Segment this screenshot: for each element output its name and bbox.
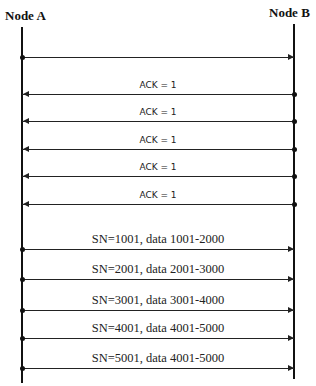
message-origin-dot [292, 147, 297, 152]
message-label: SN=2001, data 2001-3000 [22, 262, 294, 277]
message-label: ACK = 1 [22, 162, 294, 172]
message-arrow-line [22, 310, 294, 311]
arrowhead-icon [288, 54, 294, 60]
data-message: SN=3001, data 3001-4000 [0, 310, 316, 311]
ack-message: ACK = 1 [0, 176, 316, 177]
message-arrow-line [22, 368, 294, 369]
data-message: SN=1001, data 1001-2000 [0, 249, 316, 250]
message-label: ACK = 1 [22, 80, 294, 90]
data-message: SN=4001, data 4001-5000 [0, 338, 316, 339]
message-label: SN=3001, data 3001-4000 [22, 293, 294, 308]
ack-message: ACK = 1 [0, 94, 316, 95]
message-label: ACK = 1 [22, 135, 294, 145]
message-arrow-line [22, 121, 294, 122]
message-origin-dot [20, 366, 25, 371]
message-arrow-line [22, 204, 294, 205]
message-arrow-line [22, 176, 294, 177]
message-origin-dot [20, 308, 25, 313]
message-label: SN=5001, data 4001-5000 [22, 351, 294, 366]
arrowhead-icon [23, 118, 29, 124]
message-arrow-line [22, 149, 294, 150]
message-arrow-line [22, 279, 294, 280]
message-label: SN=1001, data 1001-2000 [22, 232, 294, 247]
data-message: SN=2001, data 2001-3000 [0, 279, 316, 280]
arrowhead-icon [23, 173, 29, 179]
message-arrow-line [22, 57, 294, 58]
arrowhead-icon [23, 201, 29, 207]
message-arrow-line [22, 338, 294, 339]
ack-message: ACK = 1 [0, 121, 316, 122]
message-origin-dot [20, 336, 25, 341]
message-label: ACK = 1 [22, 190, 294, 200]
node-b-label: Node B [269, 5, 310, 21]
message-origin-dot [292, 92, 297, 97]
ack-message: ACK = 1 [0, 149, 316, 150]
ack-message: ACK = 1 [0, 204, 316, 205]
data-message [0, 57, 316, 58]
arrowhead-icon [23, 146, 29, 152]
message-origin-dot [292, 174, 297, 179]
data-message: SN=5001, data 4001-5000 [0, 368, 316, 369]
message-label: ACK = 1 [22, 107, 294, 117]
message-label: SN=4001, data 4001-5000 [22, 321, 294, 336]
node-a-label: Node A [5, 8, 46, 24]
message-arrow-line [22, 94, 294, 95]
message-origin-dot [20, 277, 25, 282]
arrowhead-icon [23, 91, 29, 97]
message-origin-dot [20, 247, 25, 252]
message-arrow-line [22, 249, 294, 250]
message-origin-dot [20, 55, 25, 60]
message-origin-dot [292, 202, 297, 207]
message-origin-dot [292, 119, 297, 124]
